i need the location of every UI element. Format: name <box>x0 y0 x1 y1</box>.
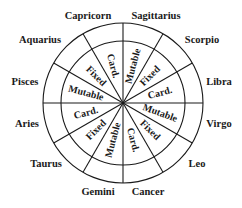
sign-label-cancer: Cancer <box>132 187 165 198</box>
sign-label-taurus: Taurus <box>30 159 62 170</box>
sign-label-gemini: Gemini <box>81 187 114 198</box>
sign-label-leo: Leo <box>189 159 206 170</box>
sign-label-libra: Libra <box>206 77 232 88</box>
spokes <box>43 23 203 183</box>
sign-label-scorpio: Scorpio <box>185 35 219 46</box>
sign-label-pisces: Pisces <box>12 77 39 88</box>
sign-label-aquarius: Aquarius <box>19 35 61 46</box>
sign-label-sagittarius: Sagittarius <box>131 11 180 22</box>
sign-label-capricorn: Capricorn <box>65 11 112 22</box>
sign-label-virgo: Virgo <box>206 119 231 130</box>
sign-label-aries: Aries <box>15 119 39 130</box>
zodiac-wheel <box>0 0 242 208</box>
